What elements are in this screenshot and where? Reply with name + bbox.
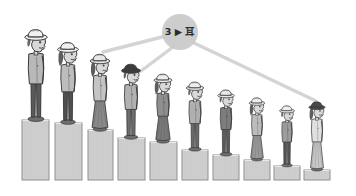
figure-8 [249, 98, 265, 161]
figure-torso [311, 119, 322, 142]
pedestal-bar-1 [22, 120, 49, 180]
figure-eye [319, 110, 321, 112]
figure-hat-white-fedora [186, 82, 203, 90]
figure-base [28, 117, 44, 122]
figure-hat-white-fedora [218, 90, 235, 98]
figure-skirt [156, 115, 170, 141]
figure-torso [61, 64, 75, 92]
figure-skirt [311, 140, 324, 168]
figure-eye [197, 91, 199, 93]
figure-torso [157, 93, 169, 117]
figure-legs [284, 141, 291, 164]
figure-hat-dark-fedora [309, 102, 325, 110]
figure-hat-white-fedora [154, 74, 172, 83]
pedestal-bar-4 [118, 138, 145, 180]
figure-skirt [251, 134, 264, 159]
figure-3 [90, 54, 110, 131]
figure-skirt [92, 99, 108, 128]
figure-legs [31, 82, 41, 117]
figure-5 [154, 74, 172, 143]
figure-eye [134, 74, 136, 76]
figure-torso [252, 114, 263, 136]
figure-7 [218, 90, 235, 156]
figure-torso [220, 107, 232, 130]
figure-base [282, 164, 293, 167]
connector-to-figure-3 [103, 36, 166, 52]
callout-node-label: 3 ▶ 耳 [165, 26, 196, 37]
figure-hat-white-fedora [58, 42, 79, 52]
figure-eye [228, 99, 230, 101]
figure-1 [25, 30, 47, 122]
pedestal-bar-6 [182, 150, 208, 180]
figure-legs [63, 90, 72, 120]
figure-legs [222, 128, 229, 153]
pedestal-bar-9 [274, 166, 300, 180]
figure-base [220, 152, 232, 156]
figure-6 [186, 82, 203, 151]
cartoon-bar-chart-illustration: 3 ▶ 耳 [0, 0, 356, 196]
figure-torso [124, 84, 137, 110]
figure-hat-white-fedora [249, 98, 265, 105]
figure-torso [282, 121, 292, 142]
figure-torso [189, 100, 201, 124]
figure-base [61, 120, 76, 124]
connector-to-figure-4 [141, 47, 173, 71]
figure-torso [93, 75, 107, 101]
pedestal-bar-2 [55, 123, 82, 180]
callout-node-circle[interactable]: 3 ▶ 耳 [162, 14, 198, 50]
figure-10 [309, 102, 325, 171]
figure-hat-striped-fedora [90, 54, 110, 63]
figure-eye [259, 106, 261, 108]
figure-9 [279, 106, 294, 167]
figure-eye [39, 41, 41, 43]
figure-eye [289, 114, 290, 115]
pedestal-bar-8 [244, 160, 270, 180]
figure-legs [191, 122, 199, 148]
pedestal-bar-3 [88, 130, 113, 180]
figure-legs [127, 108, 136, 136]
illustration-canvas: Cartoon figures standing on descending p… [0, 0, 356, 196]
connector-to-figure-10 [194, 43, 316, 101]
pedestal-bar-7 [213, 155, 239, 180]
figure-4 [121, 64, 140, 139]
figure-hat-dark-fedora [121, 64, 140, 73]
figure-base [189, 147, 201, 151]
figure-torso [28, 53, 44, 84]
figure-hat-white-fedora [25, 30, 47, 41]
pedestal-bar-10 [304, 170, 330, 180]
figure-base [124, 135, 138, 139]
figure-eye [71, 53, 73, 55]
figure-hat-white-fedora [279, 106, 294, 113]
callout-node: 3 ▶ 耳 [162, 14, 198, 50]
figure-eye [103, 64, 105, 66]
figure-2 [58, 42, 79, 124]
figure-eye [165, 83, 167, 85]
pedestal-bar-5 [150, 142, 177, 180]
